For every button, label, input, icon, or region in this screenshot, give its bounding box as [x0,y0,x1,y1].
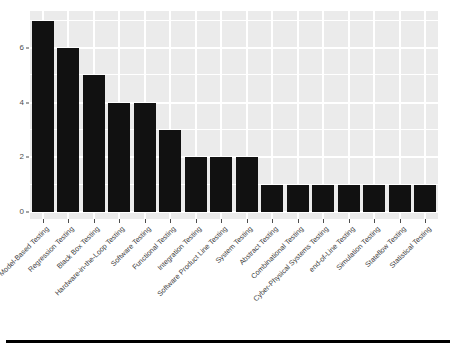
y-tick-label: 6 [20,44,24,52]
bar-chart: 0246 Model-Based TestingRegression Testi… [0,0,455,356]
plot-panel [30,11,438,219]
x-tick-mark [349,219,350,223]
bar [134,103,156,212]
bar [414,185,436,212]
x-tick-mark [323,219,324,223]
bar [363,185,385,212]
bar [312,185,334,212]
x-tick-mark [43,219,44,223]
bottom-divider [6,340,450,343]
x-tick-mark [94,219,95,223]
bar [210,157,232,212]
x-tick-mark [221,219,222,223]
x-tick-mark [145,219,146,223]
x-axis: Model-Based TestingRegression TestingBla… [30,219,438,329]
x-tick-mark [374,219,375,223]
y-tick-label: 4 [20,99,24,107]
bar [83,75,105,212]
y-tick-mark [26,47,29,48]
x-tick-mark [400,219,401,223]
y-tick-label: 0 [20,208,24,216]
bar [287,185,309,212]
y-tick-mark [26,102,29,103]
x-tick-mark [170,219,171,223]
x-tick-mark [68,219,69,223]
y-tick-mark [26,157,29,158]
x-tick-mark [196,219,197,223]
bar [159,130,181,212]
gridline-major-y-6 [30,47,438,49]
gridline-minor-y-7 [30,20,438,21]
bar [32,21,54,212]
x-tick-mark [425,219,426,223]
x-tick-mark [298,219,299,223]
x-tick-mark [247,219,248,223]
y-tick-mark [26,212,29,213]
bar [185,157,207,212]
y-axis: 0246 [0,11,30,219]
bar [389,185,411,212]
bar [261,185,283,212]
y-tick-label: 2 [20,153,24,161]
bar [236,157,258,212]
x-tick-mark [119,219,120,223]
bar [338,185,360,212]
bar [108,103,130,212]
bar [57,48,79,212]
x-tick-mark [272,219,273,223]
